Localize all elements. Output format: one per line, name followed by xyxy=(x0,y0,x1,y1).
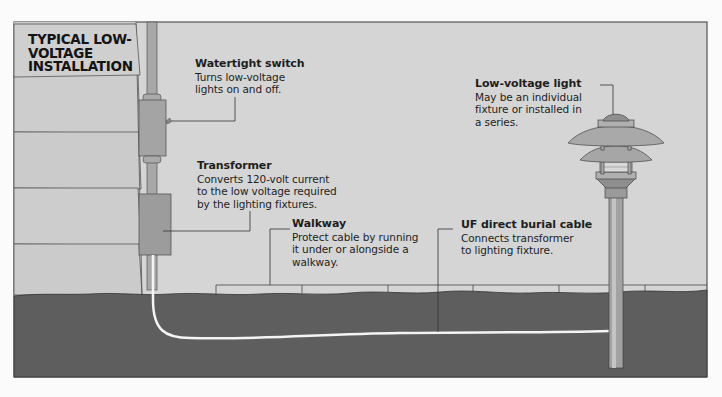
callout-title: UF direct burial cable xyxy=(461,219,592,232)
callout-text: to lighting fixture. xyxy=(461,244,592,257)
callout-uf-cable: UF direct burial cable Connects transfor… xyxy=(461,219,592,257)
callout-text: by the lighting fixtures. xyxy=(197,198,337,211)
callout-title: Transformer xyxy=(197,160,337,173)
callout-text: May be an individual xyxy=(475,91,582,104)
transformer-box xyxy=(139,194,171,255)
callout-low-voltage-light: Low-voltage light May be an individual f… xyxy=(475,78,582,128)
callout-text: Protect cable by running xyxy=(292,231,418,244)
callout-text: a series. xyxy=(475,116,582,129)
callout-text: walkway. xyxy=(292,256,418,269)
callout-watertight-switch: Watertight switch Turns low-voltage ligh… xyxy=(195,58,305,96)
callout-text: Converts 120-volt current xyxy=(197,173,337,186)
callout-transformer: Transformer Converts 120-volt current to… xyxy=(197,160,337,210)
callout-text: fixture or installed in xyxy=(475,103,582,116)
callout-text: it under or alongside a xyxy=(292,243,418,256)
diagram-title: TYPICAL LOW- VOLTAGE INSTALLATION xyxy=(28,33,133,74)
diagram-stage: TYPICAL LOW- VOLTAGE INSTALLATION Watert… xyxy=(0,0,722,397)
callout-text: Turns low-voltage xyxy=(195,71,305,84)
callout-title: Walkway xyxy=(292,218,418,231)
callout-text: Connects transformer xyxy=(461,232,592,245)
callout-title: Low-voltage light xyxy=(475,78,582,91)
watertight-switch-box xyxy=(139,94,171,163)
callout-text: to the low voltage required xyxy=(197,185,337,198)
callout-walkway: Walkway Protect cable by running it unde… xyxy=(292,218,418,268)
title-line: INSTALLATION xyxy=(28,60,133,74)
callout-text: lights on and off. xyxy=(195,83,305,96)
callout-title: Watertight switch xyxy=(195,58,305,71)
